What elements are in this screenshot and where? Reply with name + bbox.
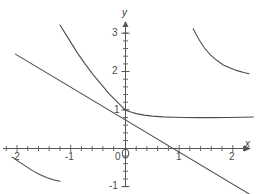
y-tick-label-neg1: -1 — [109, 181, 118, 191]
y-axis-arrow-icon — [123, 21, 129, 27]
graph-figure: -2 -1 0 1 2 1 2 3 -1 x y — [0, 0, 260, 194]
x-tick-label-pos1: 1 — [176, 152, 182, 162]
x-tick-label-neg1: -1 — [65, 152, 74, 162]
hyperbola-branch-upper-right — [193, 29, 249, 74]
x-axis-label: x — [245, 139, 250, 149]
y-tick-label-pos3: 3 — [112, 28, 118, 38]
origin-label: 0 — [115, 152, 121, 162]
y-tick-label-pos2: 2 — [112, 66, 118, 76]
tangent-line — [15, 54, 250, 194]
x-tick-label-neg2: -2 — [11, 152, 20, 162]
y-tick-label-pos1: 1 — [114, 105, 120, 115]
y-axis-label: y — [122, 8, 127, 18]
x-tick-label-pos2: 2 — [229, 152, 235, 162]
hyperbola-branch-lower-left — [14, 158, 60, 181]
coordinate-plot — [0, 0, 260, 194]
decaying-curve — [60, 25, 253, 118]
